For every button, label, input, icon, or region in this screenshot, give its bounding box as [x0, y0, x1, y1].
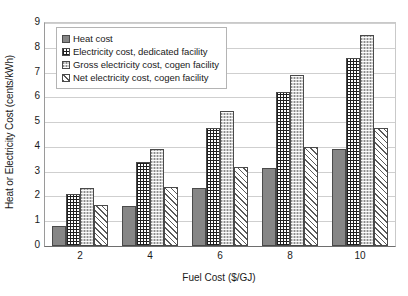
bar-group [262, 23, 318, 246]
legend-label: Heat cost [73, 33, 113, 44]
y-axis-tick-label: 5 [18, 116, 40, 126]
y-axis-tick-label: 3 [18, 166, 40, 176]
y-axis-tick-label: 7 [18, 67, 40, 77]
x-axis-title: Fuel Cost ($/GJ) [44, 272, 394, 284]
legend-swatch-icon [62, 35, 70, 43]
y-axis-title: Heat or Electricity Cost (cents/kWh) [3, 6, 17, 258]
bar[interactable] [276, 92, 290, 246]
bar[interactable] [360, 35, 374, 246]
chart-legend: Heat costElectricity cost, dedicated fac… [56, 27, 227, 89]
bar[interactable] [290, 75, 304, 246]
legend-item[interactable]: Electricity cost, dedicated facility [62, 45, 219, 58]
y-axis-tick-labels: 0123456789 [18, 16, 40, 248]
x-axis-tick-label: 8 [255, 250, 325, 262]
y-axis-tick-label: 0 [18, 240, 40, 250]
bar[interactable] [346, 58, 360, 246]
bar[interactable] [220, 111, 234, 246]
x-axis-tick-label: 6 [185, 250, 255, 262]
bar[interactable] [52, 226, 66, 246]
bar-group [332, 23, 388, 246]
y-axis-tick-label: 9 [18, 17, 40, 27]
y-axis-tick-label: 8 [18, 42, 40, 52]
bar[interactable] [304, 147, 318, 246]
y-axis-tick-label: 2 [18, 190, 40, 200]
bar[interactable] [80, 188, 94, 246]
y-axis-tick-label: 6 [18, 91, 40, 101]
bar[interactable] [192, 188, 206, 246]
bar-chart: Heat or Electricity Cost (cents/kWh) 012… [0, 0, 408, 296]
bar[interactable] [150, 149, 164, 246]
x-axis-tick-label: 2 [45, 250, 115, 262]
x-axis-tick-labels: 246810 [45, 250, 395, 264]
y-axis-tick-label: 1 [18, 215, 40, 225]
y-axis-tick-label: 4 [18, 141, 40, 151]
legend-swatch-icon [62, 74, 70, 82]
bar[interactable] [374, 128, 388, 246]
bar[interactable] [164, 187, 178, 246]
bar[interactable] [136, 162, 150, 246]
bar[interactable] [332, 149, 346, 246]
legend-label: Electricity cost, dedicated facility [73, 46, 207, 57]
legend-swatch-icon [62, 61, 70, 69]
bar[interactable] [122, 206, 136, 246]
legend-item[interactable]: Gross electricity cost, cogen facility [62, 58, 219, 71]
legend-label: Gross electricity cost, cogen facility [73, 59, 219, 70]
bar[interactable] [66, 194, 80, 246]
legend-swatch-icon [62, 48, 70, 56]
x-axis-tick-label: 10 [325, 250, 395, 262]
bar[interactable] [94, 205, 108, 246]
bar[interactable] [206, 128, 220, 246]
bar[interactable] [234, 167, 248, 246]
legend-item[interactable]: Net electricity cost, cogen facility [62, 71, 219, 84]
x-axis-tick-label: 4 [115, 250, 185, 262]
legend-item[interactable]: Heat cost [62, 32, 219, 45]
legend-label: Net electricity cost, cogen facility [73, 72, 208, 83]
bar[interactable] [262, 168, 276, 246]
